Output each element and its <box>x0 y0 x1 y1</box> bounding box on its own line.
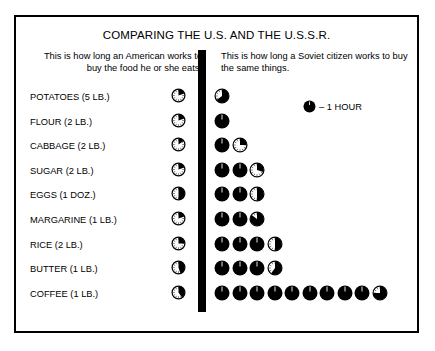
ussr-value-cell <box>214 137 248 153</box>
clock-icon-partial <box>171 285 186 300</box>
clock-icon-partial <box>214 88 230 104</box>
clock-icon <box>249 285 265 301</box>
clock-icon-partial <box>249 211 265 227</box>
comparison-rows: POTATOES (5 LB.)FLOUR (2 LB.)CABBAGE (2 … <box>16 86 417 307</box>
clock-icon <box>267 285 283 301</box>
clock-icon <box>214 186 230 202</box>
us-value-cell <box>163 186 193 201</box>
clock-icon <box>319 285 335 301</box>
clock-icon <box>232 236 248 252</box>
ussr-value-cell <box>214 236 283 252</box>
ussr-value-cell <box>214 285 388 301</box>
comparison-row: COFFEE (1 LB.) <box>16 283 417 308</box>
ussr-value-cell <box>214 260 283 276</box>
clock-icon-partial <box>267 236 283 252</box>
clock-icon <box>214 260 230 276</box>
comparison-row: RICE (2 LB.) <box>16 234 417 259</box>
us-value-cell <box>163 113 193 128</box>
intro-text-us: This is how long an American works to bu… <box>30 51 202 74</box>
clock-icon-partial <box>171 88 186 103</box>
row-label: POTATOES (5 LB.) <box>30 92 110 102</box>
clock-icon <box>214 162 230 178</box>
clock-icon <box>302 285 318 301</box>
clock-icon-partial <box>171 137 186 152</box>
clock-icon-partial <box>171 211 186 226</box>
row-label: FLOUR (2 LB.) <box>30 117 92 127</box>
clock-icon <box>249 236 265 252</box>
clock-icon-partial <box>232 137 248 153</box>
infographic-frame: COMPARING THE U.S. AND THE U.S.S.R. This… <box>14 15 419 333</box>
comparison-row: POTATOES (5 LB.) <box>16 86 417 111</box>
us-value-cell <box>163 236 193 251</box>
clock-icon <box>214 285 230 301</box>
clock-icon-partial <box>171 162 186 177</box>
us-value-cell <box>163 260 193 275</box>
ussr-value-cell <box>214 162 265 178</box>
us-value-cell <box>163 88 193 103</box>
ussr-value-cell <box>214 186 265 202</box>
comparison-row: EGGS (1 DOZ.) <box>16 184 417 209</box>
comparison-row: BUTTER (1 LB.) <box>16 258 417 283</box>
row-label: SUGAR (2 LB.) <box>30 166 94 176</box>
comparison-row: SUGAR (2 LB.) <box>16 160 417 185</box>
clock-icon <box>214 211 230 227</box>
clock-icon-partial <box>171 113 186 128</box>
us-value-cell <box>163 211 193 226</box>
clock-icon <box>249 260 265 276</box>
comparison-row: MARGARINE (1 LB.) <box>16 209 417 234</box>
clock-icon-partial <box>267 260 283 276</box>
ussr-value-cell <box>214 113 230 129</box>
clock-icon <box>232 260 248 276</box>
row-label: BUTTER (1 LB.) <box>30 264 98 274</box>
clock-icon-partial <box>171 260 186 275</box>
row-label: RICE (2 LB.) <box>30 240 83 250</box>
intro-text-ussr: This is how long a Soviet citizen works … <box>221 51 411 74</box>
clock-icon <box>284 285 300 301</box>
clock-icon <box>232 186 248 202</box>
row-label: EGGS (1 DOZ.) <box>30 190 96 200</box>
clock-icon <box>214 236 230 252</box>
us-value-cell <box>163 162 193 177</box>
comparison-row: FLOUR (2 LB.) <box>16 111 417 136</box>
clock-icon <box>354 285 370 301</box>
clock-icon-partial <box>372 285 388 301</box>
ussr-value-cell <box>214 211 265 227</box>
clock-icon <box>232 162 248 178</box>
clock-icon <box>337 285 353 301</box>
row-label: CABBAGE (2 LB.) <box>30 141 105 151</box>
clock-icon-partial <box>249 162 265 178</box>
row-label: MARGARINE (1 LB.) <box>30 215 117 225</box>
row-label: COFFEE (1 LB.) <box>30 289 98 299</box>
clock-icon-partial <box>249 186 265 202</box>
ussr-value-cell <box>214 88 230 104</box>
clock-icon <box>232 285 248 301</box>
clock-icon <box>214 113 230 129</box>
us-value-cell <box>163 137 193 152</box>
clock-icon-partial <box>171 236 186 251</box>
clock-icon-partial <box>171 186 186 201</box>
page-title: COMPARING THE U.S. AND THE U.S.S.R. <box>16 29 417 41</box>
comparison-row: CABBAGE (2 LB.) <box>16 135 417 160</box>
us-value-cell <box>163 285 193 300</box>
clock-icon <box>214 137 230 153</box>
clock-icon <box>232 211 248 227</box>
